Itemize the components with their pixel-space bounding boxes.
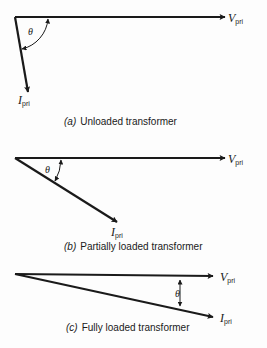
voltage-phasor [15,274,213,276]
diagram-b-partially-loaded: θ Vpri Ipri (b)Partially loaded transfor… [15,152,244,252]
phasor-diagrams: θ Vpri Ipri (a)Unloaded transformer θ Vp… [0,0,267,348]
current-label: Ipri [17,93,30,108]
current-phasor [15,274,213,317]
angle-arc [55,160,61,181]
diagram-c-fully-loaded: θ Vpri Ipri (c)Fully loaded transformer [15,270,236,333]
current-label: Ipri [110,225,123,240]
voltage-label: Vpri [228,152,244,167]
caption-a: (a)Unloaded transformer [64,116,178,127]
theta-label: θ [28,26,33,37]
diagram-a-unloaded: θ Vpri Ipri (a)Unloaded transformer [15,11,244,127]
caption-b: (b)Partially loaded transformer [64,241,203,252]
theta-label: θ [175,288,180,299]
angle-arc [22,19,48,49]
caption-c: (c)Fully loaded transformer [66,322,190,333]
voltage-label: Vpri [228,11,244,26]
current-label: Ipri [219,311,232,326]
current-phasor [15,158,117,222]
theta-label: θ [45,164,50,175]
voltage-label: Vpri [220,270,236,285]
current-phasor [15,17,28,92]
